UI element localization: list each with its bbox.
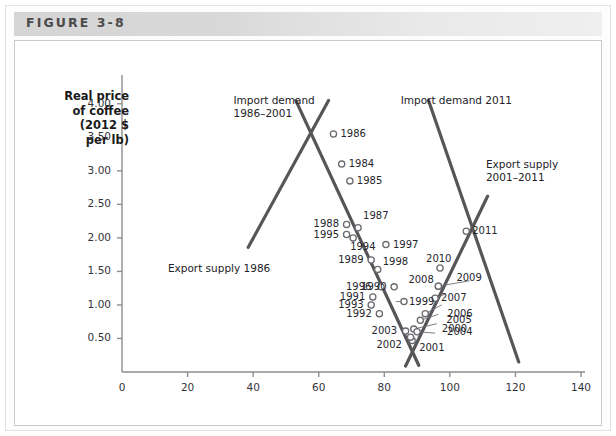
data-point-label-2002: 2002 xyxy=(377,339,402,350)
data-point-label-2011: 2011 xyxy=(472,225,497,236)
x-tick-label-80: 80 xyxy=(367,381,401,393)
x-tick-label-120: 120 xyxy=(498,381,532,393)
curve-label-export-supply-1986-line-0: Export supply 1986 xyxy=(168,262,270,275)
data-point-2004[interactable] xyxy=(414,329,420,335)
data-point-label-1985: 1985 xyxy=(357,175,382,186)
data-point-2003[interactable] xyxy=(402,328,408,334)
data-point-label-1999: 1999 xyxy=(409,296,434,307)
curve-label-export-supply-2001-2011: Export supply2001–2011 xyxy=(486,158,558,184)
curve-label-import-demand-1986-2001-line-1: 1986–2001 xyxy=(233,107,314,120)
data-point-1988[interactable] xyxy=(343,221,349,227)
data-point-label-1997: 1997 xyxy=(393,239,418,250)
data-point-label-2008: 2008 xyxy=(408,274,433,285)
data-point-label-1987: 1987 xyxy=(363,210,388,221)
data-point-label-2010: 2010 xyxy=(426,253,451,264)
data-point-label-1989: 1989 xyxy=(338,254,363,265)
data-point-1992[interactable] xyxy=(376,311,382,317)
data-point-label-2009: 2009 xyxy=(456,272,481,283)
data-point-label-1994: 1994 xyxy=(350,241,375,252)
y-tick-label-3.00: 3.00 xyxy=(77,164,111,176)
data-point-1986[interactable] xyxy=(330,131,336,137)
curve-label-import-demand-1986-2001: Import demand1986–2001 xyxy=(233,94,314,120)
data-point-1985[interactable] xyxy=(347,178,353,184)
x-tick-label-20: 20 xyxy=(171,381,205,393)
y-tick-label-2.50: 2.50 xyxy=(77,197,111,209)
x-tick-label-40: 40 xyxy=(236,381,270,393)
x-tick-label-0: 0 xyxy=(105,381,139,393)
curve-label-import-demand-2011-line-0: Import demand 2011 xyxy=(401,94,512,107)
data-point-label-2001: 2001 xyxy=(419,342,444,353)
y-tick-label-1.50: 1.50 xyxy=(77,264,111,276)
data-point-1999[interactable] xyxy=(401,298,407,304)
y-tick-label-1.00: 1.00 xyxy=(77,298,111,310)
data-point-label-1998: 1998 xyxy=(383,256,408,267)
data-point-label-2006: 2006 xyxy=(447,308,472,319)
data-point-label-2007: 2007 xyxy=(441,292,466,303)
data-point-label-1996: 1996 xyxy=(346,281,371,292)
data-point-1987[interactable] xyxy=(355,225,361,231)
curve-label-export-supply-1986: Export supply 1986 xyxy=(168,262,270,275)
data-point-1995[interactable] xyxy=(343,231,349,237)
x-tick-label-100: 100 xyxy=(433,381,467,393)
data-point-2010[interactable] xyxy=(437,265,443,271)
figure-root: FIGURE 3-8 Real priceof coffee(2012 $per… xyxy=(0,0,616,436)
data-point-2006[interactable] xyxy=(422,311,428,317)
curve-label-export-supply-2001-2011-line-1: 2001–2011 xyxy=(486,171,558,184)
y-tick-label-3.50: 3.50 xyxy=(77,130,111,142)
data-point-1984[interactable] xyxy=(339,161,345,167)
x-tick-label-140: 140 xyxy=(564,381,598,393)
data-point-label-1995: 1995 xyxy=(314,229,339,240)
data-point-label-2004: 2004 xyxy=(447,326,472,337)
data-point-label-1986: 1986 xyxy=(340,128,365,139)
figure-number-label: FIGURE 3-8 xyxy=(26,15,126,30)
data-point-2009[interactable] xyxy=(435,283,441,289)
y-tick-label-0.50: 0.50 xyxy=(77,331,111,343)
y-tick-label-2.00: 2.00 xyxy=(77,231,111,243)
data-point-label-2003: 2003 xyxy=(372,325,397,336)
data-point-label-1984: 1984 xyxy=(349,158,374,169)
data-point-2011[interactable] xyxy=(463,228,469,234)
data-point-2005[interactable] xyxy=(417,317,423,323)
data-point-label-1993: 1993 xyxy=(338,299,363,310)
data-point-1991[interactable] xyxy=(370,294,376,300)
plot-card: Real priceof coffee(2012 $per lb) Quanti… xyxy=(14,40,602,426)
data-point-1990[interactable] xyxy=(391,284,397,290)
curve-label-export-supply-2001-2011-line-0: Export supply xyxy=(486,158,558,171)
curve-label-import-demand-2011: Import demand 2011 xyxy=(401,94,512,107)
data-point-2002[interactable] xyxy=(407,334,413,340)
data-point-1998[interactable] xyxy=(375,266,381,272)
x-tick-label-60: 60 xyxy=(302,381,336,393)
data-point-1989[interactable] xyxy=(368,257,374,263)
y-tick-label-4.00: 4.00 xyxy=(77,97,111,109)
curve-label-import-demand-1986-2001-line-0: Import demand xyxy=(233,94,314,107)
data-point-1997[interactable] xyxy=(383,241,389,247)
